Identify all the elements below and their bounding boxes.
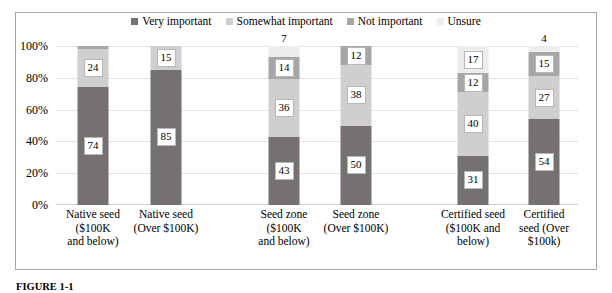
- bar-segment[interactable]: 14: [269, 57, 300, 79]
- stacked-bar[interactable]: 503812: [341, 46, 372, 205]
- legend-item[interactable]: Somewhat important: [226, 16, 333, 28]
- bar-segment-value-label: 40: [464, 115, 483, 133]
- legend-swatch-icon: [437, 18, 444, 25]
- y-axis-tick-label: 0%: [32, 198, 48, 213]
- bar-segment[interactable]: 50: [341, 126, 372, 206]
- bar-segment[interactable]: 15: [529, 52, 560, 76]
- legend-swatch-icon: [131, 18, 138, 25]
- plot-area: 742485154336147503812314012175427154: [56, 46, 578, 205]
- bar-segment-value-label: 15: [535, 55, 554, 73]
- bar-group: 4336147: [244, 46, 324, 205]
- bar-segment[interactable]: 36: [269, 79, 300, 136]
- bar-segment-value-label: 15: [157, 49, 176, 67]
- bar-group: 5427154: [504, 46, 584, 205]
- y-axis-labels: 0%20%40%60%80%100%: [0, 46, 52, 205]
- bar-segment-value-label: 17: [464, 51, 483, 69]
- x-axis-category-label: Native seed(Over $100K): [122, 208, 210, 235]
- legend-item-label: Very important: [142, 16, 211, 28]
- x-axis-category-label-line: and below): [240, 235, 328, 249]
- chart-legend: Very importantSomewhat importantNot impo…: [0, 16, 612, 28]
- figure-root: Very importantSomewhat importantNot impo…: [0, 0, 612, 293]
- bar-segment-value-label: 14: [275, 59, 294, 77]
- x-axis-category-label: Seed zone(Over $100K): [312, 208, 400, 235]
- x-axis-category-label-line: Certified: [500, 208, 588, 222]
- bar-segment[interactable]: 74: [78, 87, 109, 205]
- bar-segment[interactable]: 54: [529, 119, 560, 205]
- x-axis-category-label-line: (Over $100K): [122, 222, 210, 236]
- bar-segment[interactable]: 27: [529, 76, 560, 119]
- y-axis-tick-label: 100%: [20, 39, 48, 54]
- legend-item-label: Not important: [358, 16, 423, 28]
- legend-swatch-icon: [347, 18, 354, 25]
- figure-caption: FIGURE 1-1: [16, 281, 596, 293]
- bar-segment-value-label: 43: [275, 162, 294, 180]
- legend-item[interactable]: Very important: [131, 16, 211, 28]
- figure-caption-prefix: FIGURE 1-1: [16, 281, 73, 292]
- bar-segment[interactable]: 38: [341, 65, 372, 125]
- bar-segment[interactable]: 12: [341, 46, 372, 65]
- bar-segment[interactable]: 43: [269, 137, 300, 205]
- y-axis-tick-label: 20%: [26, 166, 48, 181]
- bar-segment-value-label: 12: [347, 47, 366, 65]
- bar-series-layer: 742485154336147503812314012175427154: [56, 46, 578, 205]
- stacked-bar[interactable]: 4336147: [269, 46, 300, 205]
- bar-segment-value-label: 54: [535, 153, 554, 171]
- bar-segment[interactable]: 12: [458, 73, 489, 92]
- bar-segment[interactable]: 4: [529, 46, 560, 52]
- bar-segment-value-label: 36: [275, 99, 294, 117]
- bar-segment-value-label: 4: [540, 33, 549, 44]
- stacked-bar[interactable]: 5427154: [529, 46, 560, 205]
- legend-item-label: Unsure: [448, 16, 481, 28]
- bar-segment-value-label: 38: [347, 86, 366, 104]
- bar-segment[interactable]: 85: [151, 70, 182, 205]
- bar-segment-value-label: 27: [535, 89, 554, 107]
- stacked-bar[interactable]: 8515: [151, 46, 182, 205]
- x-axis-category-label-line: Native seed: [122, 208, 210, 222]
- bar-segment[interactable]: 40: [458, 92, 489, 156]
- bar-segment[interactable]: [78, 46, 109, 49]
- bar-group: 503812: [316, 46, 396, 205]
- legend-swatch-icon: [226, 18, 233, 25]
- bar-segment[interactable]: 7: [269, 46, 300, 57]
- x-axis-category-label-line: seed (Over: [500, 222, 588, 236]
- bar-group: 31401217: [433, 46, 513, 205]
- bar-group: 7424: [53, 46, 133, 205]
- bar-segment[interactable]: 15: [151, 46, 182, 70]
- x-axis-category-label-line: $100k): [500, 235, 588, 249]
- bar-segment[interactable]: 31: [458, 156, 489, 205]
- bar-segment-value-label: 12: [464, 74, 483, 92]
- y-axis-tick-label: 40%: [26, 134, 48, 149]
- bar-segment-value-label: 74: [84, 137, 103, 155]
- bar-group: 8515: [126, 46, 206, 205]
- legend-item[interactable]: Unsure: [437, 16, 481, 28]
- x-axis-category-label-line: (Over $100K): [312, 222, 400, 236]
- bar-segment[interactable]: 24: [78, 49, 109, 87]
- x-axis-labels: Native seed($100Kand below)Native seed(O…: [56, 208, 578, 266]
- x-axis-category-label: Certifiedseed (Over$100k): [500, 208, 588, 249]
- stacked-bar[interactable]: 7424: [78, 46, 109, 205]
- stacked-bar[interactable]: 31401217: [458, 46, 489, 205]
- legend-item[interactable]: Not important: [347, 16, 423, 28]
- x-axis-category-label-line: Seed zone: [312, 208, 400, 222]
- x-axis-category-label-line: and below): [49, 235, 137, 249]
- bar-segment-value-label: 7: [280, 33, 289, 44]
- bar-segment-value-label: 50: [347, 156, 366, 174]
- bar-segment-value-label: 24: [84, 59, 103, 77]
- bar-segment-value-label: 85: [157, 128, 176, 146]
- y-axis-tick-label: 60%: [26, 102, 48, 117]
- legend-item-label: Somewhat important: [237, 16, 333, 28]
- y-axis-tick-label: 80%: [26, 70, 48, 85]
- bar-segment-value-label: 31: [464, 171, 483, 189]
- bar-segment[interactable]: 17: [458, 46, 489, 73]
